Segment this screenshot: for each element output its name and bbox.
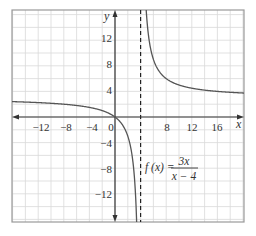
x-tick-label: 0 <box>108 121 114 133</box>
curve-left-branch <box>6 101 139 236</box>
x-tick-label: −12 <box>32 121 49 133</box>
y-tick-label: 8 <box>107 58 113 70</box>
y-tick-labels: 12 8 4 −4 −8 −12 <box>95 32 113 200</box>
y-tick-label: 12 <box>101 32 112 44</box>
formula-denominator: x − 4 <box>171 170 197 182</box>
y-tick-label: 4 <box>107 84 113 96</box>
function-formula: f (x) = 3x x − 4 <box>144 155 212 184</box>
graph-canvas: y x −12 −8 −4 0 8 12 16 12 8 4 −4 −8 −12… <box>0 0 256 236</box>
y-tick-label: −4 <box>100 137 112 149</box>
y-axis-down-arrow-icon <box>113 215 118 222</box>
x-tick-label: −4 <box>86 121 98 133</box>
x-axis-label: x <box>235 117 242 131</box>
curve-right-branch <box>143 0 250 93</box>
formula-lhs: f (x) = <box>145 161 174 174</box>
y-tick-label: −12 <box>95 188 112 200</box>
x-tick-label: −8 <box>60 121 72 133</box>
x-tick-label: 16 <box>212 121 224 133</box>
y-tick-label: −8 <box>100 163 112 175</box>
x-tick-label: 12 <box>187 121 198 133</box>
x-tick-label: 8 <box>164 121 170 133</box>
function-graph: y x −12 −8 −4 0 8 12 16 12 8 4 −4 −8 −12… <box>0 0 256 236</box>
y-axis-up-arrow-icon <box>113 10 118 17</box>
y-axis-label: y <box>103 9 110 23</box>
x-axis-left-arrow-icon <box>12 115 19 120</box>
formula-numerator: 3x <box>178 155 191 167</box>
